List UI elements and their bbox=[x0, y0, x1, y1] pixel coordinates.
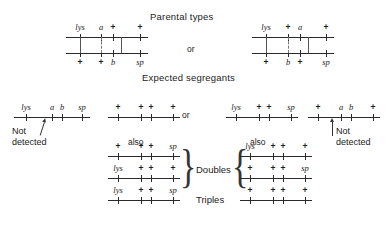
locus-tick bbox=[305, 197, 306, 204]
allele-label: sp bbox=[322, 57, 330, 67]
allele-label: + bbox=[286, 22, 291, 32]
locus-tick bbox=[113, 34, 114, 41]
locus-tick bbox=[250, 153, 251, 160]
locus-tick bbox=[250, 197, 251, 204]
allele-label: + bbox=[149, 185, 154, 195]
segregant-left-double-1-strand: +++sp bbox=[108, 156, 180, 157]
not-detected-right-line2: detected bbox=[336, 137, 371, 148]
locus-tick bbox=[300, 34, 301, 41]
allele-label: b bbox=[111, 57, 115, 67]
allele-label: lys bbox=[113, 185, 122, 195]
locus-tick bbox=[151, 197, 152, 204]
strand-axis bbox=[66, 53, 148, 54]
parental-left-top-strand: lysa++ bbox=[66, 37, 148, 38]
segregant-right-triple-strand: ++++ bbox=[240, 200, 312, 201]
allele-label: + bbox=[149, 141, 154, 151]
allele-label: + bbox=[281, 163, 286, 173]
triples-label: Triples bbox=[196, 194, 224, 205]
locus-tick bbox=[300, 50, 301, 57]
locus-tick bbox=[173, 175, 174, 182]
locus-tick bbox=[140, 34, 141, 41]
allele-label: + bbox=[264, 57, 269, 67]
allele-label: b bbox=[286, 57, 290, 67]
allele-label: a bbox=[50, 102, 54, 112]
locus-tick bbox=[236, 114, 237, 121]
locus-tick bbox=[52, 114, 53, 121]
strand-axis bbox=[252, 37, 334, 38]
locus-tick bbox=[351, 114, 352, 121]
parental-right-connector-1 bbox=[266, 37, 267, 53]
locus-tick bbox=[141, 114, 142, 121]
locus-tick bbox=[269, 114, 270, 121]
locus-tick bbox=[118, 197, 119, 204]
locus-tick bbox=[318, 114, 319, 121]
locus-tick bbox=[140, 50, 141, 57]
allele-label: lys bbox=[261, 22, 270, 32]
locus-tick bbox=[283, 175, 284, 182]
or-label-segregants: or bbox=[182, 110, 190, 120]
allele-label: sp bbox=[169, 185, 177, 195]
allele-label: + bbox=[257, 102, 262, 112]
locus-tick bbox=[173, 153, 174, 160]
allele-label: + bbox=[139, 185, 144, 195]
allele-label: + bbox=[248, 185, 253, 195]
segregant-center-right-single-strand: lys++sp bbox=[226, 117, 298, 118]
allele-label: sp bbox=[287, 102, 295, 112]
strand-axis bbox=[252, 53, 334, 54]
parental-left-connector-2 bbox=[101, 37, 102, 53]
locus-tick bbox=[82, 114, 83, 121]
doubles-label: Doubles bbox=[196, 164, 231, 175]
locus-tick bbox=[283, 153, 284, 160]
allele-label: b bbox=[60, 102, 64, 112]
allele-label: a bbox=[339, 102, 343, 112]
allele-label: + bbox=[138, 22, 143, 32]
locus-tick bbox=[273, 153, 274, 160]
locus-tick bbox=[141, 153, 142, 160]
strand-axis bbox=[66, 37, 148, 38]
locus-tick bbox=[141, 175, 142, 182]
allele-label: + bbox=[171, 102, 176, 112]
not-detected-left-line2: detected bbox=[12, 137, 47, 148]
allele-label: + bbox=[139, 141, 144, 151]
allele-label: lys bbox=[75, 22, 84, 32]
allele-label: lys bbox=[113, 163, 122, 173]
locus-tick bbox=[26, 114, 27, 121]
locus-tick bbox=[373, 114, 374, 121]
not-detected-left-line1: Not bbox=[12, 126, 47, 137]
allele-label: + bbox=[99, 57, 104, 67]
allele-label: sp bbox=[136, 57, 144, 67]
locus-tick bbox=[62, 114, 63, 121]
locus-tick bbox=[151, 175, 152, 182]
segregant-right-undetected-strand: +ab+ bbox=[308, 117, 380, 118]
allele-label: + bbox=[324, 22, 329, 32]
locus-tick bbox=[341, 114, 342, 121]
segregant-left-undetected-strand: lysabsp bbox=[14, 117, 90, 118]
allele-label: + bbox=[149, 163, 154, 173]
not-detected-right-line1: Not bbox=[336, 126, 371, 137]
locus-tick bbox=[283, 197, 284, 204]
allele-label: + bbox=[303, 141, 308, 151]
parental-left-connector-3 bbox=[121, 37, 122, 53]
allele-label: + bbox=[149, 102, 154, 112]
allele-label: lys bbox=[231, 102, 240, 112]
allele-label: + bbox=[271, 141, 276, 151]
parental-left-connector-1 bbox=[80, 37, 81, 53]
locus-tick bbox=[173, 197, 174, 204]
allele-label: b bbox=[349, 102, 353, 112]
not-detected-right-note: Not detected bbox=[336, 126, 371, 148]
locus-tick bbox=[291, 114, 292, 121]
locus-tick bbox=[326, 34, 327, 41]
allele-label: lys bbox=[245, 141, 254, 151]
locus-tick bbox=[151, 153, 152, 160]
allele-label: + bbox=[298, 57, 303, 67]
allele-label: + bbox=[139, 102, 144, 112]
allele-label: + bbox=[139, 163, 144, 173]
locus-tick bbox=[305, 175, 306, 182]
locus-tick bbox=[118, 114, 119, 121]
allele-label: + bbox=[171, 163, 176, 173]
locus-tick bbox=[118, 175, 119, 182]
locus-tick bbox=[305, 153, 306, 160]
locus-tick bbox=[118, 153, 119, 160]
locus-tick bbox=[173, 114, 174, 121]
doubles-brace-left: } bbox=[180, 144, 196, 190]
